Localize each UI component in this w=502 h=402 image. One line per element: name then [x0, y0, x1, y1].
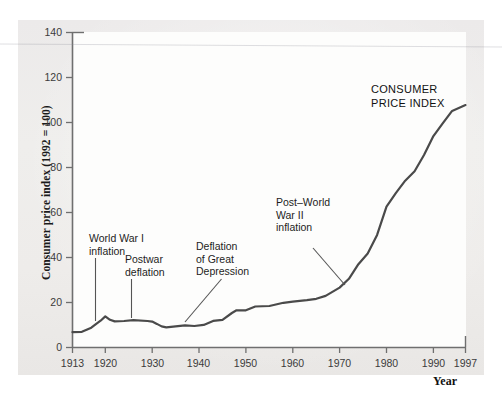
y-tick-label-80: 80 — [26, 161, 62, 173]
y-axis-ticks — [66, 33, 72, 348]
y-tick-label-0: 0 — [26, 341, 62, 353]
x-tick-label-1930: 1930 — [132, 357, 173, 369]
leader-postwar2 — [313, 248, 345, 285]
x-tick-label-1960: 1960 — [272, 357, 313, 369]
annotation-postwar-deflation: Postwar deflation — [125, 253, 165, 278]
x-tick-label-1997: 1997 — [445, 357, 486, 369]
annotation-post-world-war-ii-inflation: Post–World War II inflation — [276, 196, 330, 234]
figure-page: Consumer price index (1992 = 100) 140 12… — [0, 0, 502, 402]
x-tick-label-1920: 1920 — [85, 357, 126, 369]
chart-graphic — [0, 0, 502, 402]
series-label-cpi: CONSUMER PRICE INDEX — [371, 83, 445, 110]
y-tick-label-20: 20 — [26, 296, 62, 308]
x-axis-title: Year — [433, 374, 457, 389]
leader-depression — [185, 279, 222, 322]
y-tick-label-60: 60 — [26, 206, 62, 218]
x-tick-label-1980: 1980 — [366, 357, 407, 369]
x-tick-label-1970: 1970 — [319, 357, 360, 369]
y-tick-label-120: 120 — [26, 71, 62, 83]
y-tick-label-40: 40 — [26, 251, 62, 263]
x-tick-label-1950: 1950 — [225, 357, 266, 369]
annotation-deflation-great-depression: Deflation of Great Depression — [196, 240, 249, 278]
x-tick-label-1940: 1940 — [178, 357, 219, 369]
y-tick-label-140: 140 — [26, 26, 62, 38]
y-tick-label-100: 100 — [26, 116, 62, 128]
